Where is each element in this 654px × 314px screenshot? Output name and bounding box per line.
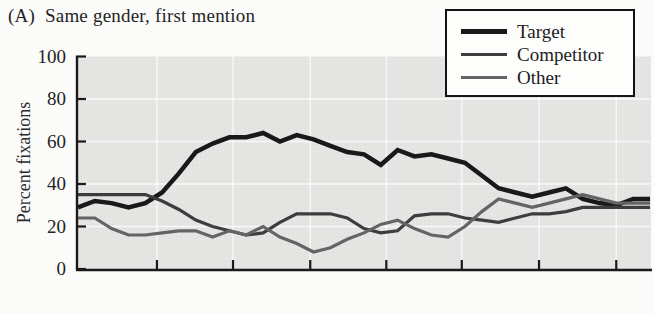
competitor-line-swatch — [461, 53, 507, 57]
legend-row-target: Target — [461, 20, 633, 43]
svg-text:80: 80 — [47, 88, 66, 109]
chart-legend: Target Competitor Other — [445, 9, 635, 97]
legend-row-competitor: Competitor — [461, 43, 633, 66]
svg-text:0: 0 — [57, 258, 67, 279]
legend-label-competitor: Competitor — [517, 45, 604, 64]
other-line-swatch — [461, 76, 507, 80]
svg-text:60: 60 — [47, 131, 66, 152]
svg-text:40: 40 — [47, 173, 66, 194]
svg-text:100: 100 — [38, 46, 67, 67]
fixation-line-chart: (A)Same gender, first mention Percent fi… — [0, 0, 654, 314]
legend-row-other: Other — [461, 66, 633, 89]
legend-label-other: Other — [517, 68, 560, 87]
legend-label-target: Target — [517, 22, 565, 41]
target-line-swatch — [461, 29, 507, 34]
svg-text:20: 20 — [47, 216, 66, 237]
